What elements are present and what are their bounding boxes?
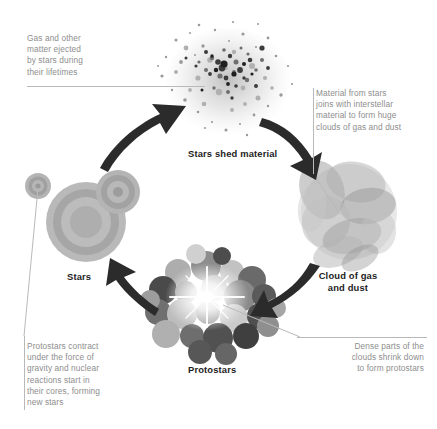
stellar-lifecycle-diagram: Gas and other matter ejected by stars du… (0, 0, 437, 429)
stage-label-stars: Stars (67, 271, 91, 282)
caption-ejected-matter: Gas and other matter ejected by stars du… (27, 33, 119, 78)
leader-line-dense-parts (297, 337, 427, 338)
leader-line-contract (24, 336, 25, 410)
stage-label-stars-shed-material: Stars shed material (188, 148, 277, 159)
leader-line-interstellar (313, 88, 314, 174)
leader-line-ejected-matter (27, 86, 205, 87)
caption-dense-parts: Dense parts of the clouds shrink down to… (297, 341, 424, 375)
stage-label-protostars: Protostars (188, 364, 236, 375)
stage-label-cloud-of-gas-and-dust: Cloud of gas and dust (313, 270, 383, 293)
diagram-text-layer: Gas and other matter ejected by stars du… (0, 0, 437, 429)
caption-interstellar-material: Material from stars joins with interstel… (316, 88, 434, 133)
caption-protostars-contract: Protostars contract under the force of g… (27, 341, 123, 408)
